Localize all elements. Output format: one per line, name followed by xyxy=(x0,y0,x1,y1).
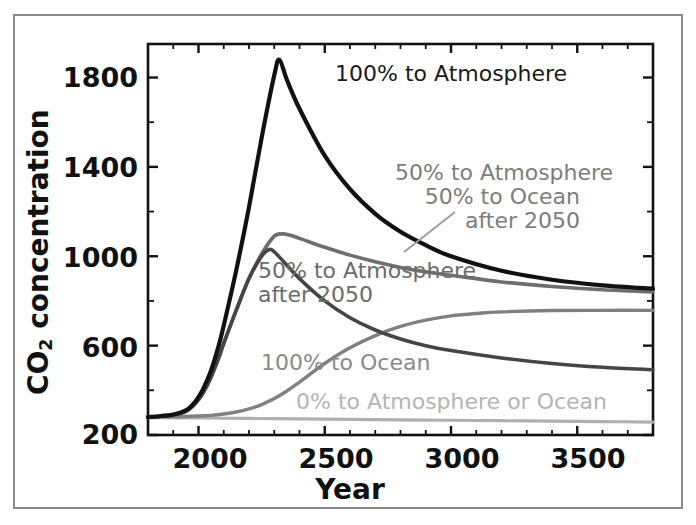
annotation-100-to-ocean: 100% to Ocean xyxy=(261,351,430,375)
axis-ticks xyxy=(148,44,653,435)
axes-frame xyxy=(148,44,653,435)
x-axis-title: Year xyxy=(280,473,420,506)
chart-figure: 1800 1400 1000 600 200 2000 2500 3000 35… xyxy=(0,0,696,525)
annotation-0-to-atmosphere-or-ocean: 0% to Atmosphere or Ocean xyxy=(296,390,607,414)
ytick-label-200: 200 xyxy=(28,419,138,450)
xtick-label-3500: 3500 xyxy=(528,443,648,474)
annotation-100-to-atmosphere: 100% to Atmosphere xyxy=(335,62,567,86)
xtick-label-2000: 2000 xyxy=(150,443,270,474)
xtick-label-3000: 3000 xyxy=(402,443,522,474)
axes-box xyxy=(148,44,653,435)
annotation-50-atmosphere-50-ocean: 50% to Atmosphere 50% to Ocean after 205… xyxy=(395,161,580,232)
y-axis-title: CO2 concentration xyxy=(22,109,56,395)
xtick-label-2500: 2500 xyxy=(276,443,396,474)
ytick-label-1800: 1800 xyxy=(28,62,138,93)
annotation-50-to-atmosphere: 50% to Atmosphere after 2050 xyxy=(258,259,476,307)
series-line-4 xyxy=(148,418,653,422)
